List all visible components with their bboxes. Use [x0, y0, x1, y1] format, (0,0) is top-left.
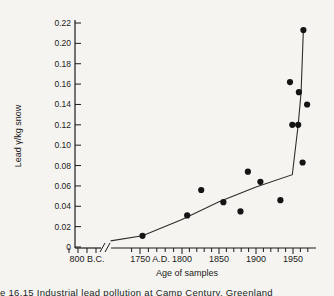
x-tick-label: 1900	[246, 254, 266, 264]
y-axis-title: Lead γ/kg snow	[13, 104, 23, 167]
x-tick-label: 1750 A.D.	[130, 254, 170, 264]
x-tick-label: 800 B.C.	[69, 254, 104, 264]
x-tick-label: 1850	[209, 254, 229, 264]
data-point	[304, 101, 310, 107]
lead-pollution-chart: 00.020.040.060.080.100.120.140.160.180.2…	[0, 0, 334, 296]
data-point	[198, 187, 204, 193]
data-point	[289, 122, 295, 128]
data-point	[287, 79, 293, 85]
trend-line	[111, 29, 304, 241]
data-point	[296, 89, 302, 95]
y-tick-label: 0.04	[54, 201, 71, 211]
data-point	[139, 233, 145, 239]
y-tick-label: 0.16	[54, 79, 71, 89]
y-tick-label: 0.10	[54, 140, 71, 150]
figure-caption-text: e 16.15 Industrial lead pollution at Cam…	[0, 287, 334, 296]
data-point	[220, 199, 226, 205]
y-tick-label: 0.12	[54, 120, 71, 130]
figure-caption: e 16.15 Industrial lead pollution at Cam…	[0, 287, 334, 296]
y-tick-label: 0.14	[54, 99, 71, 109]
y-tick-label: 0.20	[54, 38, 71, 48]
data-point	[245, 169, 251, 175]
axis-break-mark	[105, 243, 110, 252]
x-tick-label: 1800	[172, 254, 192, 264]
data-point	[184, 212, 190, 218]
data-point	[277, 197, 283, 203]
y-tick-label: 0.18	[54, 59, 71, 69]
y-tick-label: 0.22	[54, 18, 71, 28]
y-tick-label: 0.08	[54, 161, 71, 171]
x-axis-title: Age of samples	[156, 268, 219, 278]
data-point	[300, 27, 306, 33]
data-point	[300, 159, 306, 165]
scanned-page: Tsaihwa J. Chow and Clair C. Patterson 0…	[0, 0, 334, 296]
data-point	[237, 208, 243, 214]
data-point	[295, 122, 301, 128]
y-tick-label: 0.06	[54, 181, 71, 191]
x-tick-label: 1950	[283, 254, 303, 264]
y-tick-label: 0.02	[54, 222, 71, 232]
data-point	[257, 179, 263, 185]
